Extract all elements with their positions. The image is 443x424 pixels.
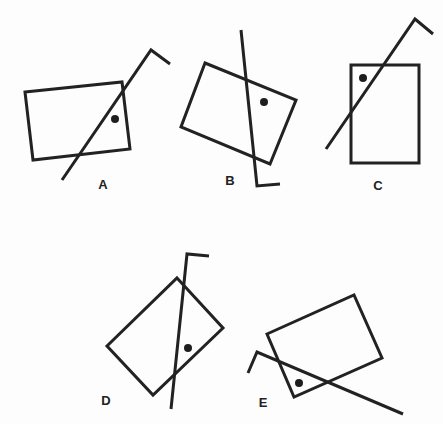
figure-label-a: A: [98, 177, 107, 192]
dot-b: [260, 98, 268, 106]
figures-svg: [0, 0, 443, 424]
dot-d: [184, 344, 192, 352]
figure-d: [107, 254, 223, 409]
figure-b: [181, 30, 296, 186]
figure-label-b: B: [225, 173, 234, 188]
figure-label-e: E: [259, 395, 268, 410]
figure-e: [248, 295, 403, 414]
figure-label-d: D: [101, 393, 110, 408]
figure-a: [25, 50, 170, 180]
dot-a: [111, 115, 119, 123]
rectangle-d: [107, 278, 223, 395]
figure-label-c: C: [373, 178, 382, 193]
figure-c: [326, 19, 433, 163]
hooked-line-a: [62, 50, 170, 180]
dot-e: [295, 379, 303, 387]
diagram-canvas: A B C D E: [0, 0, 443, 424]
hooked-line-b: [241, 30, 280, 186]
dot-c: [359, 74, 367, 82]
rectangle-b: [181, 63, 296, 164]
hooked-line-c: [326, 19, 433, 149]
